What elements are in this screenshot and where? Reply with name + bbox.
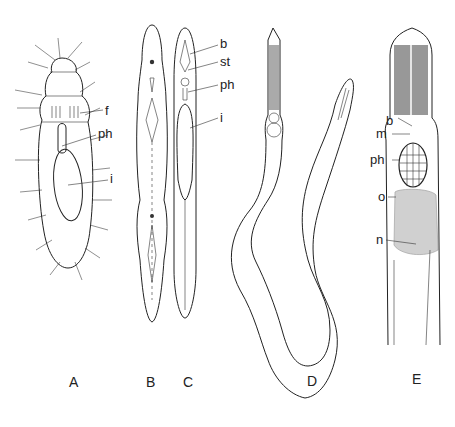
label-c-b: b — [220, 37, 227, 50]
panel-label-d: D — [307, 374, 317, 388]
panel-label-a: A — [69, 375, 78, 389]
organism-b-drawing — [137, 25, 168, 322]
organism-e-drawing — [385, 28, 440, 345]
label-e-o: o — [378, 190, 385, 203]
label-e-n: n — [376, 233, 383, 246]
label-e-ph: ph — [370, 153, 384, 166]
organism-d-drawing — [231, 28, 353, 398]
label-c-ph: ph — [220, 78, 234, 91]
label-e-m: m — [376, 127, 387, 140]
label-a-i: i — [110, 172, 113, 185]
panel-label-c: C — [183, 375, 193, 389]
label-c-i: i — [220, 111, 223, 124]
label-e-b: b — [386, 114, 393, 127]
panel-label-b: B — [146, 375, 155, 389]
organism-a-drawing — [15, 38, 112, 280]
panel-label-e: E — [412, 372, 421, 386]
label-c-st: st — [220, 55, 230, 68]
organism-c-drawing — [174, 28, 196, 318]
figure-canvas: f ph i b st ph i b m ph o n A B C D E — [0, 0, 455, 427]
label-a-f: f — [105, 104, 109, 117]
label-a-ph: ph — [98, 127, 112, 140]
